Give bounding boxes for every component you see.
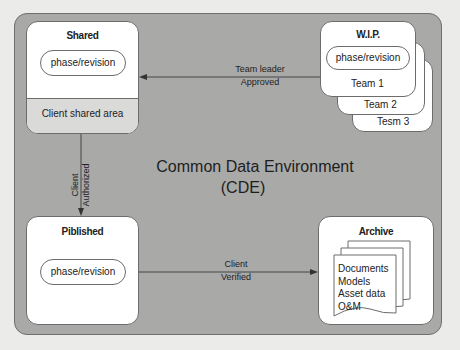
published-to-archive-label: Client Verified	[196, 259, 276, 283]
label-line: Verified	[196, 272, 276, 283]
label-line: Approved	[200, 77, 320, 88]
label-line: Team leader	[200, 64, 320, 75]
cde-subtitle: (CDE)	[13, 179, 460, 197]
label-line: Client	[196, 259, 276, 270]
wip-to-shared-label: Team leader Approved	[200, 64, 320, 88]
cde-title: Common Data Environment	[25, 158, 460, 176]
